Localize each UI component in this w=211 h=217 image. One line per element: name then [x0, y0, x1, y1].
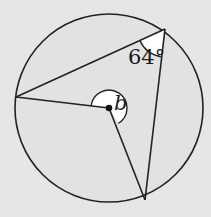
circle-theorem-diagram: 64° b: [0, 0, 211, 217]
reflex-angle-label: b: [114, 91, 127, 115]
inscribed-angle-label: 64°: [128, 45, 165, 69]
center-point: [106, 105, 113, 112]
